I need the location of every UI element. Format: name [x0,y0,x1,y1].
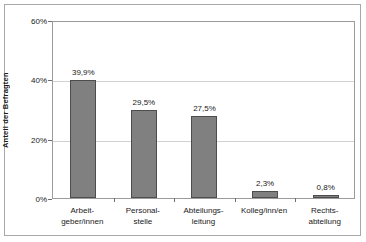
x-tick-label: Kolleg/inn/en [234,206,295,217]
bar-group: 2,3% [235,22,296,198]
y-tick-mark [48,199,52,200]
bar[interactable] [70,80,96,198]
bar[interactable] [252,191,278,198]
bar-group: 0,8% [295,22,356,198]
x-tick-label-line: stelle [113,217,174,228]
bar-value-label: 39,9% [72,68,95,77]
x-tick-label-line: geber/innen [52,217,113,228]
x-tick-label-line: Kolleg/inn/en [234,206,295,217]
x-tick-label: Arbeit-geber/innen [52,206,113,227]
bar-value-label: 0,8% [317,183,335,192]
bar-group: 29,5% [114,22,175,198]
plot-area: 39,9%29,5%27,5%2,3%0,8% [52,21,355,199]
bar[interactable] [191,116,217,198]
bar[interactable] [131,110,157,198]
bar-group: 27,5% [174,22,235,198]
bar-value-label: 27,5% [193,104,216,113]
x-tick-mark [235,198,236,202]
x-tick-label: Rechts-abteilung [294,206,355,227]
chart-figure: Anteil der Befragten 0%20%40%60% 39,9%29… [0,0,366,242]
bars-layer: 39,9%29,5%27,5%2,3%0,8% [53,22,354,198]
bar-value-label: 2,3% [256,179,274,188]
x-tick-label: Abteilungs-leitung [173,206,234,227]
x-tick-label-line: abteilung [294,217,355,228]
x-tick-label-line: Abteilungs- [173,206,234,217]
y-tick-label: 20% [19,135,47,144]
x-tick-mark [114,198,115,202]
y-axis-title: Anteil der Befragten [0,40,12,180]
x-tick-label-line: leitung [173,217,234,228]
x-tick-label: Personal-stelle [113,206,174,227]
bar-group: 39,9% [53,22,114,198]
x-tick-label-line: Personal- [113,206,174,217]
bar[interactable] [313,195,339,198]
x-tick-mark [174,198,175,202]
y-tick-label: 0% [19,195,47,204]
x-tick-mark [295,198,296,202]
x-tick-label-line: Arbeit- [52,206,113,217]
x-tick-label-line: Rechts- [294,206,355,217]
bar-value-label: 29,5% [133,98,156,107]
y-tick-label: 40% [19,76,47,85]
y-tick-label: 60% [19,17,47,26]
